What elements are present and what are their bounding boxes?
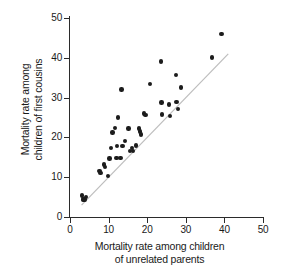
data-point [210,55,214,59]
data-point [103,165,107,169]
data-point [179,85,183,89]
identity-reference-line [70,18,263,217]
x-axis-label-line-1: Mortality rate among children [52,240,267,253]
x-axis-label-line-2: of unrelated parents [52,253,267,266]
data-point [120,144,124,148]
y-axis-label-line-2: children of first cousins [31,10,44,210]
x-tick-10 [109,218,110,223]
scatter-plot-figure: 01020304050 01020304050 Mortality rate a… [0,0,284,275]
x-tick-label-20: 20 [135,225,159,235]
x-tick-label-50: 50 [251,225,275,235]
x-tick-20 [147,218,148,223]
y-tick-0 [64,217,69,218]
data-point [116,115,120,119]
data-point [113,126,117,130]
y-tick-40 [64,58,69,59]
y-axis-label: Mortality rate among children of first c… [19,10,44,210]
data-point [143,113,147,117]
plot-area [70,18,263,217]
y-tick-30 [64,98,69,99]
data-point [159,100,163,104]
y-axis-label-line-1: Mortality rate among [19,10,32,210]
x-tick-50 [263,218,264,223]
x-tick-40 [224,218,225,223]
x-tick-label-10: 10 [97,225,121,235]
x-axis-line [69,217,264,218]
data-point [174,100,178,104]
data-point [174,73,178,77]
y-tick-50 [64,18,69,19]
y-tick-10 [64,177,69,178]
x-axis-label: Mortality rate among children of unrelat… [52,240,267,265]
data-point [176,107,180,111]
x-tick-0 [70,218,71,223]
data-point [126,126,130,130]
y-tick-20 [64,137,69,138]
data-point [139,132,143,136]
data-point [118,156,122,160]
data-point [219,32,223,36]
data-point [110,130,114,134]
data-point [107,156,111,160]
x-tick-label-40: 40 [212,225,236,235]
data-point [134,143,138,147]
x-tick-30 [186,218,187,223]
data-point [109,146,113,150]
data-point [167,102,171,106]
data-point [160,112,164,116]
data-point [159,59,163,63]
x-tick-label-30: 30 [174,225,198,235]
y-tick-label-0: 0 [40,212,62,222]
data-point [119,87,123,91]
x-tick-label-0: 0 [58,225,82,235]
